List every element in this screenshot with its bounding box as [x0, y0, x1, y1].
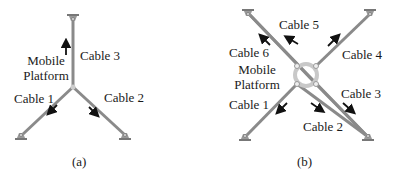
- arrow-cable6-icon: [262, 37, 270, 45]
- cable-2-label: Cable 2: [104, 91, 144, 104]
- caption-b: (b): [297, 155, 312, 168]
- arrow-cable3-icon: [343, 103, 352, 111]
- attach-point-icon: [295, 82, 300, 87]
- anchor-bottom-right-icon: [119, 133, 131, 140]
- platform-label-line1: Mobile: [22, 54, 70, 67]
- cable-3-label: Cable 3: [341, 87, 381, 100]
- attach-point-icon: [295, 64, 300, 69]
- arrow-cable2-icon: [311, 103, 321, 110]
- cable-1-label: Cable 1: [14, 92, 54, 105]
- cable-5-label: Cable 5: [279, 18, 319, 31]
- cable-1-label: Cable 1: [229, 98, 269, 111]
- anchor-bottom-left-icon: [239, 134, 251, 141]
- arrow-cable4-icon: [328, 37, 337, 46]
- platform-label-b: Mobile Platform: [231, 63, 283, 91]
- diagram-canvas: [0, 0, 395, 177]
- platform-label-a: Mobile Platform: [22, 54, 70, 82]
- platform-label-line2: Platform: [22, 69, 70, 82]
- attach-point-icon: [314, 82, 319, 87]
- anchor-top-right-icon: [364, 9, 376, 16]
- cable-4-label: Cable 4: [342, 48, 382, 61]
- caption-a: (a): [72, 155, 86, 168]
- cable-3-label: Cable 3: [80, 49, 120, 62]
- arrow-cable5-icon: [288, 38, 298, 44]
- anchor-top-left-icon: [242, 9, 254, 16]
- arrow-cable1-icon: [279, 103, 287, 111]
- cable-2-label: Cable 2: [303, 120, 343, 133]
- anchor-bottom-left-icon: [15, 133, 27, 140]
- platform-point: [71, 85, 76, 90]
- attach-point-icon: [314, 64, 319, 69]
- cable-6-label: Cable 6: [229, 46, 269, 59]
- anchor-top-icon: [67, 14, 79, 21]
- platform-label-line2: Platform: [231, 78, 283, 91]
- platform-label-line1: Mobile: [231, 63, 283, 76]
